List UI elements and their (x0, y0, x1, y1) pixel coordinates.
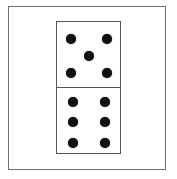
domino-tile (56, 21, 121, 154)
top-pip-3 (84, 51, 94, 61)
top-pip-2 (102, 34, 112, 44)
top-pip-4 (66, 68, 76, 78)
top-pip-1 (66, 34, 76, 44)
bottom-pip-3 (68, 117, 78, 127)
bottom-pip-4 (100, 117, 110, 127)
bottom-pip-2 (100, 97, 110, 107)
domino-bottom-half (57, 88, 120, 153)
bottom-pip-1 (68, 97, 78, 107)
bottom-pip-6 (100, 138, 110, 148)
bottom-pip-5 (68, 138, 78, 148)
domino-top-half (57, 22, 120, 88)
top-pip-5 (102, 68, 112, 78)
